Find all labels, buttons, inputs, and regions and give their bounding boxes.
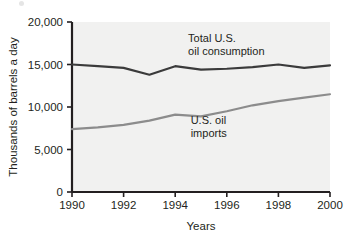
consumption-label-line: oil consumption bbox=[188, 45, 264, 57]
x-axis-title: Years bbox=[187, 220, 216, 232]
scan-artifact-speck bbox=[19, 1, 24, 6]
imports-label-line: imports bbox=[191, 127, 228, 139]
consumption-label-line: Total U.S. bbox=[188, 32, 236, 44]
x-tick-label: 1990 bbox=[59, 199, 85, 211]
x-axis-tick-labels: 199019921994199619982000 bbox=[59, 199, 343, 211]
x-tick-label: 2000 bbox=[317, 199, 343, 211]
line-chart: 05,00010,00015,00020,000 199019921994199… bbox=[0, 0, 345, 238]
y-tick-label: 0 bbox=[57, 186, 63, 198]
y-tick-label: 10,000 bbox=[28, 101, 63, 113]
y-tick-label: 15,000 bbox=[28, 59, 63, 71]
x-tick-label: 1998 bbox=[266, 199, 292, 211]
y-axis-tick-labels: 05,00010,00015,00020,000 bbox=[28, 16, 63, 198]
y-axis-title: Thousands of barrels a day bbox=[7, 37, 19, 177]
figure: 05,00010,00015,00020,000 199019921994199… bbox=[0, 0, 345, 238]
x-tick-label: 1994 bbox=[162, 199, 188, 211]
y-tick-label: 5,000 bbox=[34, 144, 63, 156]
x-tick-label: 1992 bbox=[111, 199, 137, 211]
imports-label-line: U.S. oil bbox=[191, 114, 226, 126]
y-tick-label: 20,000 bbox=[28, 16, 63, 28]
x-tick-label: 1996 bbox=[214, 199, 240, 211]
